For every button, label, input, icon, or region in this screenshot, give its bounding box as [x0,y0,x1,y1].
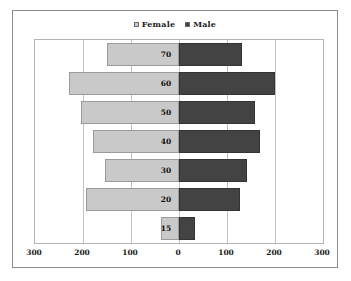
bar-female-40[interactable] [93,130,179,153]
bar-row: 40 [35,130,323,153]
bar-row: 50 [35,101,323,124]
bar-male-20[interactable] [179,188,240,211]
bar-row: 30 [35,159,323,182]
x-tick-label: 100 [218,248,234,257]
bar-row: 60 [35,72,323,95]
chart-frame: Female Male 70605040302015 3002001000100… [12,10,338,268]
bar-male-15[interactable] [179,217,195,240]
bar-female-60[interactable] [69,72,179,95]
bar-female-20[interactable] [86,188,179,211]
x-tick-label: 300 [26,248,42,257]
bar-row: 20 [35,188,323,211]
legend-label-male: Male [193,19,216,29]
x-tick-label: 200 [74,248,90,257]
legend-swatch-female [134,22,139,27]
bar-male-30[interactable] [179,159,247,182]
bar-female-50[interactable] [81,101,179,124]
bar-male-50[interactable] [179,101,255,124]
x-tick-label: 300 [314,248,330,257]
bar-female-70[interactable] [107,43,179,66]
bar-male-40[interactable] [179,130,260,153]
x-tick-label: 200 [266,248,282,257]
legend-label-female: Female [142,19,175,29]
legend-entry-male[interactable]: Male [185,19,216,29]
legend-entry-female[interactable]: Female [134,19,175,29]
plot-area: 70605040302015 [34,39,324,244]
bar-female-15[interactable] [161,217,179,240]
x-tick-label: 0 [175,248,180,257]
x-tick-label: 100 [122,248,138,257]
bar-row: 70 [35,43,323,66]
bar-female-30[interactable] [105,159,179,182]
bar-row: 15 [35,217,323,240]
bar-male-70[interactable] [179,43,242,66]
x-axis: 3002001000100200300 [34,244,324,264]
chart-legend: Female Male [13,19,337,29]
bars-layer: 70605040302015 [35,40,323,243]
legend-swatch-male [185,22,190,27]
bar-male-60[interactable] [179,72,275,95]
